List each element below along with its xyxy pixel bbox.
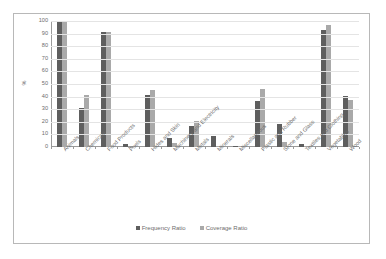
x-axis-tick-labels: AnimalsChemicalsFood ProductsFuelsHides … — [51, 148, 359, 210]
y-axis-tick-label: 40 — [28, 94, 48, 100]
legend-label: Coverage Ratio — [206, 225, 248, 231]
plot-area — [51, 21, 359, 147]
y-axis-tick-label: 20 — [28, 119, 48, 125]
y-axis-tick-label: 90 — [28, 31, 48, 37]
bar-coverage-ratio[interactable] — [106, 32, 111, 147]
y-axis-tick-label: 10 — [28, 132, 48, 138]
y-axis-tick-label: 80 — [28, 43, 48, 49]
y-axis-tick-label: 30 — [28, 106, 48, 112]
gridline — [51, 84, 359, 85]
plot-wrapper: % 1009080706050403020100 AnimalsChemical… — [14, 14, 369, 243]
gridline — [51, 34, 359, 35]
y-axis-tick-label: 0 — [28, 144, 48, 150]
gridline — [51, 59, 359, 60]
gridline — [51, 71, 359, 72]
gridline — [51, 97, 359, 98]
gridline — [51, 46, 359, 47]
bar-coverage-ratio[interactable] — [348, 100, 353, 147]
legend-swatch-coverage-ratio — [200, 226, 204, 230]
chart-legend: Frequency RatioCoverage Ratio — [14, 225, 369, 231]
bar-coverage-ratio[interactable] — [150, 90, 155, 147]
y-axis-title: % — [21, 77, 27, 89]
legend-item[interactable]: Frequency Ratio — [136, 225, 186, 231]
y-axis-tick-label: 70 — [28, 56, 48, 62]
legend-item[interactable]: Coverage Ratio — [200, 225, 248, 231]
legend-label: Frequency Ratio — [142, 225, 186, 231]
gridline — [51, 21, 359, 22]
x-axis-tick-mark — [359, 147, 360, 149]
y-axis-tick-label: 100 — [28, 18, 48, 24]
y-axis-tick-labels: 1009080706050403020100 — [28, 21, 48, 147]
gridline — [51, 109, 359, 110]
legend-swatch-frequency-ratio — [136, 226, 140, 230]
bar-coverage-ratio[interactable] — [260, 89, 265, 147]
chart-container: % 1009080706050403020100 AnimalsChemical… — [13, 13, 370, 244]
y-axis-tick-label: 50 — [28, 81, 48, 87]
y-axis-tick-label: 60 — [28, 69, 48, 75]
